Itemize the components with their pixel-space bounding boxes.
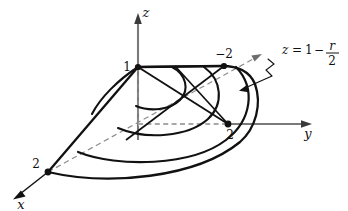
equation-leader-zigzag <box>266 59 274 76</box>
tick-label-y-two: 2 <box>226 128 234 142</box>
cone-diagram: z y x 1 −2 2 2 z = 1 − r 2 <box>0 0 348 211</box>
tick-label-neg-two: −2 <box>215 47 233 61</box>
equation-leader-line <box>245 76 272 88</box>
z-axis-arrowhead <box>134 13 142 24</box>
cone-level-arc-outer <box>78 67 249 162</box>
x-axis-dashed-arrowhead <box>251 54 262 61</box>
x-axis-line <box>20 172 48 194</box>
equation-lhs: z <box>281 43 289 57</box>
z-axis-label: z <box>142 5 150 20</box>
point-x2 <box>45 169 52 176</box>
tick-label-x-two: 2 <box>32 157 40 171</box>
tick-label-z-apex: 1 <box>123 60 131 74</box>
point-y2 <box>225 121 232 128</box>
equation-numerator: r <box>329 39 336 53</box>
equation-equals: = <box>292 43 302 57</box>
equation-one: 1 <box>305 43 313 57</box>
y-axis-label: y <box>303 126 312 141</box>
equation-denominator: 2 <box>328 54 336 68</box>
point-neg2 <box>221 63 227 69</box>
cone-ruling-apex-to-neg2 <box>138 66 224 67</box>
point-apex-z1 <box>135 64 141 70</box>
cone-level-arc-inner <box>136 67 186 109</box>
equation-minus: − <box>314 43 324 57</box>
x-axis-label: x <box>17 197 25 211</box>
equation-label: z = 1 − r 2 <box>281 39 339 68</box>
